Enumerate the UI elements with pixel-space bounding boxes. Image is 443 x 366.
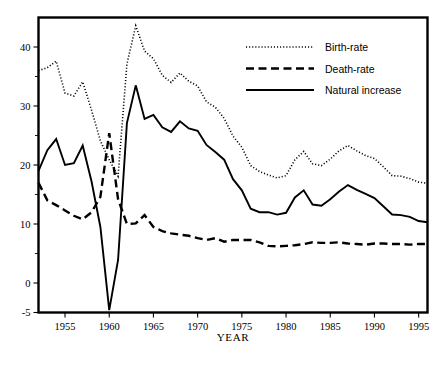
chart-legend: Birth-rateDeath-rateNatural increase	[246, 41, 402, 96]
series-line-birth-rate	[39, 26, 428, 184]
series-line-death-rate	[39, 133, 428, 246]
y-tick-label: 10	[20, 219, 31, 230]
x-tick-label: 1975	[231, 321, 252, 332]
y-tick-label: 0	[25, 278, 30, 289]
x-tick-label: 1985	[320, 321, 341, 332]
legend-label: Birth-rate	[325, 41, 368, 53]
legend-label: Natural increase	[325, 84, 402, 96]
chart-figure: 403020100-5 1955196019651970197519801985…	[0, 0, 443, 366]
x-tick-label: 1960	[99, 321, 120, 332]
x-tick-label: 1970	[187, 321, 208, 332]
x-axis-title: YEAR	[217, 331, 249, 343]
y-tick-label: 30	[20, 101, 31, 112]
y-tick-label: 40	[20, 42, 31, 53]
y-tick-label: -5	[22, 307, 31, 318]
vital-rates-line-chart: 403020100-5 1955196019651970197519801985…	[0, 0, 443, 366]
series-line-natural-increase	[39, 85, 428, 310]
x-tick-label: 1980	[276, 321, 297, 332]
x-tick-label: 1990	[364, 321, 385, 332]
y-axis: 403020100-5	[20, 42, 39, 319]
x-axis: 195519601965197019751980198519901995	[55, 313, 430, 332]
x-tick-label: 1955	[55, 321, 76, 332]
x-tick-label: 1995	[408, 321, 429, 332]
x-tick-label: 1965	[143, 321, 164, 332]
legend-label: Death-rate	[325, 63, 375, 75]
y-tick-label: 20	[20, 160, 31, 171]
